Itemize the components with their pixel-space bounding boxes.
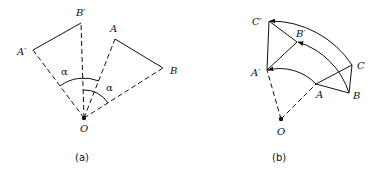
label-a: A bbox=[315, 89, 323, 100]
ray-o-a bbox=[281, 84, 316, 119]
segment-b-c bbox=[349, 65, 352, 93]
rotation-diagrams: O B′ A′ A B α α (a) O C′ B′ A′ A B C (b) bbox=[0, 0, 375, 172]
rotation-arc-a bbox=[268, 69, 316, 84]
segment-a-prime-b-prime bbox=[267, 42, 297, 70]
label-alpha-inner: α bbox=[106, 82, 113, 93]
diagram-a: O B′ A′ A B α α (a) bbox=[16, 7, 177, 163]
label-b: B bbox=[352, 90, 360, 101]
label-b-prime: B′ bbox=[295, 28, 306, 39]
ray-o-b-prime bbox=[81, 23, 84, 118]
caption-a: (a) bbox=[75, 152, 89, 163]
label-a: A bbox=[109, 23, 117, 34]
segment-a-prime-c-prime bbox=[267, 21, 269, 70]
label-a-prime: A′ bbox=[250, 67, 261, 78]
diagram-b: O C′ B′ A′ A B C (b) bbox=[250, 16, 365, 163]
label-b: B bbox=[169, 65, 177, 76]
label-a-prime: A′ bbox=[16, 46, 27, 57]
origin-point bbox=[279, 117, 283, 121]
segment-a-c bbox=[316, 65, 352, 84]
rotation-arc-b bbox=[298, 42, 349, 93]
label-b-prime: B′ bbox=[75, 7, 86, 18]
label-c: C bbox=[357, 60, 365, 71]
rotation-arc-c bbox=[270, 21, 352, 65]
label-c-prime: C′ bbox=[252, 16, 263, 27]
label-alpha-outer: α bbox=[61, 66, 68, 77]
ray-o-a-prime bbox=[267, 70, 281, 119]
ray-o-a-prime bbox=[33, 50, 84, 118]
label-o: O bbox=[80, 123, 88, 134]
label-o: O bbox=[277, 126, 285, 137]
ray-o-b bbox=[84, 68, 163, 118]
origin-point bbox=[82, 116, 86, 120]
segment-c-prime-b-prime bbox=[269, 21, 297, 42]
angle-arc-inner bbox=[83, 90, 108, 103]
segment-a-b bbox=[115, 39, 163, 68]
segment-a-prime-b-prime bbox=[33, 23, 81, 50]
caption-b: (b) bbox=[272, 152, 286, 163]
angle-arc-outer bbox=[60, 78, 99, 86]
